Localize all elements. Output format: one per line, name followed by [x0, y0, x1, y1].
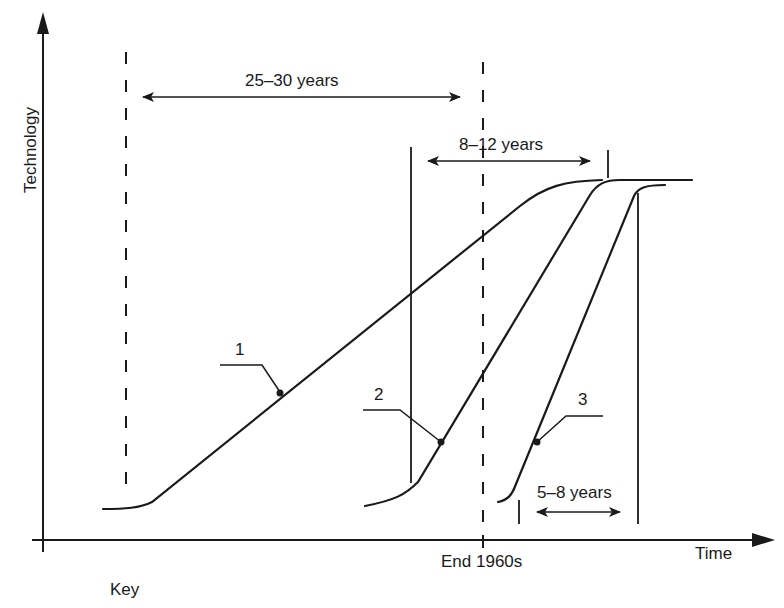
span-label-5-8: 5–8 years: [537, 483, 612, 502]
curve-2-marker: [438, 439, 445, 446]
y-axis-arrow-icon: [37, 12, 49, 34]
span-label-25-30: 25–30 years: [245, 71, 339, 90]
x-tick-end-1960s: End 1960s: [441, 552, 522, 571]
curve-2: [365, 180, 692, 506]
axes: [32, 12, 775, 552]
curve-3-label: 3: [578, 390, 587, 409]
leader-2: [363, 410, 441, 442]
curve-1-marker: [277, 390, 284, 397]
key-label: Key: [110, 580, 140, 599]
x-axis-arrow-icon: [752, 533, 775, 547]
y-axis-label: Technology: [21, 107, 40, 194]
leader-3: [537, 416, 603, 442]
x-axis-label: Time: [695, 544, 732, 563]
curve-2-label: 2: [374, 385, 383, 404]
technology-diffusion-diagram: Technology Time End 1960s Key 25–30 year…: [0, 0, 784, 608]
curve-3: [498, 185, 665, 502]
curves: [103, 180, 692, 509]
curve-3-marker: [534, 439, 541, 446]
span-label-8-12: 8–12 years: [459, 135, 543, 154]
leader-1: [220, 365, 280, 392]
dashed-markers: [126, 52, 483, 540]
curve-1-label: 1: [235, 340, 244, 359]
